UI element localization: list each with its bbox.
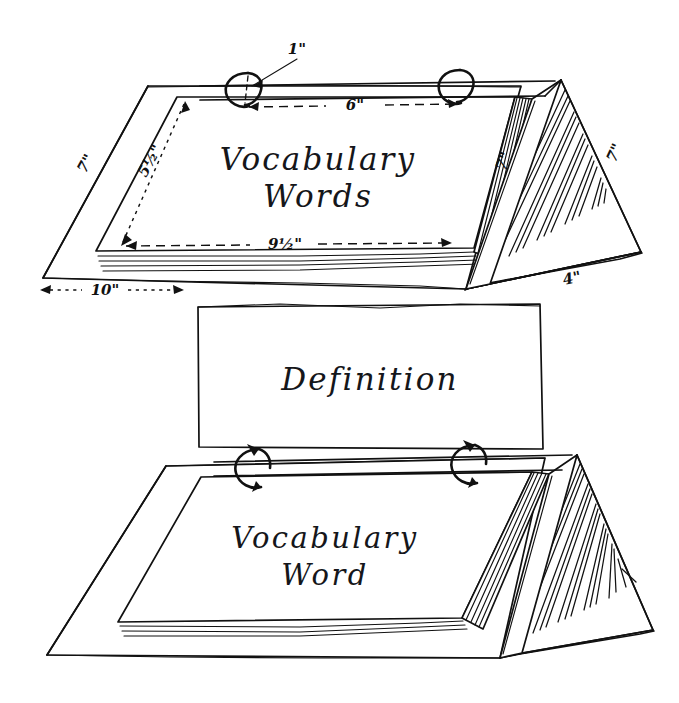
bottom-card-caption-line2: Word [281,558,368,592]
dim-page-width-right-seg [318,243,450,244]
dim-base-width-arrow-right [173,285,184,294]
dim-base-width-arrow-left [40,285,51,294]
dim-base-width: 10" [40,281,184,299]
dim-label-cover-left-height: 7" [73,151,98,176]
definition-card-label: Definition [280,361,458,397]
dim-label-ring-diameter: 1" [288,40,306,58]
top-tent-binder-unit: 1" 6" 7" 5½" [40,40,642,299]
definition-card: Definition [198,304,543,449]
top-card-caption-line2: Words [263,178,373,214]
diagram-canvas: 1" 6" 7" 5½" [0,0,679,703]
dim-label-base-width: 10" [91,281,120,299]
dim-tent-base-depth: 4" [561,267,583,288]
bottom-tent-binder-unit: Vocabulary Word [47,440,654,658]
dim-ring-leader-line [252,59,297,86]
dim-label-tent-base-depth: 4" [561,267,583,288]
bottom-card-caption-line1: Vocabulary [231,521,418,555]
dim-label-tent-slant-right: 7" [602,141,626,165]
top-card-caption-line1: Vocabulary [220,141,417,177]
dim-page-width-left-seg [126,245,250,246]
dim-label-ring-spacing: 6" [346,96,364,114]
dim-label-page-width: 9½" [268,235,302,253]
dim-tent-slant-right: 7" [602,141,626,165]
dim-cover-left-height: 7" [73,151,98,176]
diagram-root: 1" 6" 7" 5½" [0,0,679,703]
